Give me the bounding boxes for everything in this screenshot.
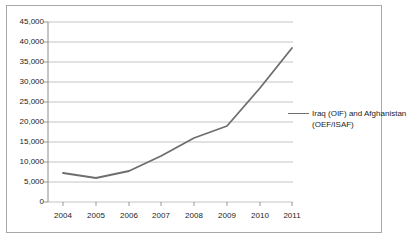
x-tick-label-2005: 2005: [78, 211, 114, 220]
y-tick-label-0: 0: [4, 197, 44, 206]
y-tick-label-20000: 20,000: [4, 117, 44, 126]
y-tick-label-15000: 15,000: [4, 137, 44, 146]
x-tick-label-2011: 2011: [274, 211, 310, 220]
y-axis-ticks: [44, 22, 48, 202]
x-tick-label-2008: 2008: [176, 211, 212, 220]
y-tick-label-35000: 35,000: [4, 57, 44, 66]
y-tick-label-10000: 10,000: [4, 157, 44, 166]
x-tick-label-2009: 2009: [209, 211, 245, 220]
series-line-iraq-afghanistan: [63, 48, 292, 178]
legend-line-swatch: [288, 113, 309, 114]
x-tick-label-2006: 2006: [111, 211, 147, 220]
y-tick-label-25000: 25,000: [4, 97, 44, 106]
y-tick-label-30000: 30,000: [4, 77, 44, 86]
x-axis-ticks: [63, 202, 292, 206]
legend-entry-label: Iraq (OIF) and Afghanistan (OEF/ISAF): [312, 108, 408, 130]
x-tick-label-2007: 2007: [143, 211, 179, 220]
x-tick-label-2004: 2004: [45, 211, 81, 220]
x-tick-label-2010: 2010: [242, 211, 278, 220]
y-tick-label-40000: 40,000: [4, 37, 44, 46]
gridlines: [48, 22, 293, 202]
y-tick-label-45000: 45,000: [4, 17, 44, 26]
y-tick-label-5000: 5,000: [4, 177, 44, 186]
